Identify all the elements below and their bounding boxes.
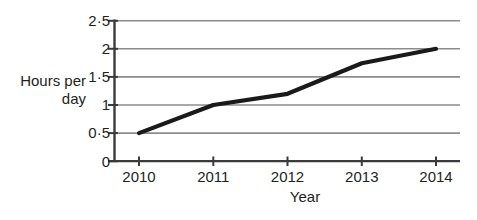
x-tick-label-2011: 2011 (197, 168, 229, 185)
x-tick-label-2010: 2010 (122, 168, 155, 185)
x-tick-label-2012: 2012 (271, 168, 304, 185)
y-tick-label-2-5: 2·5 (88, 12, 110, 29)
y-tick-label-1: 1 (102, 96, 110, 113)
line-chart: 2·5 2 1·5 1 0·5 0 2010 2011 2012 2013 20… (0, 0, 477, 220)
y-axis-title-line-2: day (62, 90, 87, 107)
y-tick-label-0-5: 0·5 (88, 124, 110, 141)
y-tick-label-0: 0 (102, 153, 110, 170)
y-axis-title-line-1: Hours per (20, 72, 86, 89)
x-axis-title: Year (290, 188, 320, 205)
chart-background (0, 0, 477, 220)
chart-screenshot: 2·5 2 1·5 1 0·5 0 2010 2011 2012 2013 20… (0, 0, 477, 220)
x-tick-label-2013: 2013 (345, 168, 378, 185)
y-tick-label-1-5: 1·5 (88, 68, 110, 85)
x-tick-label-2014: 2014 (419, 168, 452, 185)
y-tick-label-2: 2 (102, 40, 110, 57)
